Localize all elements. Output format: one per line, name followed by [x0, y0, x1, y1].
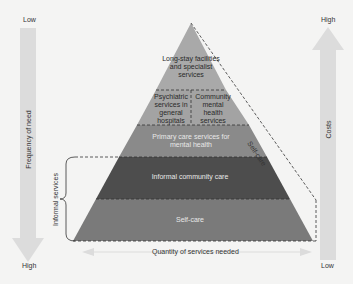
right-axis-bottom-label: Low [321, 262, 334, 270]
tier-label-primary-care: Primary care services for mental health [150, 133, 232, 149]
informal-services-label: Informal services [52, 165, 59, 235]
tier-label-community-mental-health: Community mental health services [192, 93, 234, 125]
quantity-of-services-label: Quantity of services needed [152, 248, 239, 256]
tier-label-long-stay: Long-stay facilities and specialist serv… [160, 55, 222, 79]
frequency-of-need-label: Frequency of need [25, 110, 32, 170]
tier-label-informal-community-care: Informal community care [130, 173, 250, 181]
left-axis-top-label: Low [23, 16, 36, 24]
right-axis-top-label: High [321, 16, 335, 24]
informal-services-bracket [60, 157, 75, 241]
tier-label-psychiatric: Psychiatric services in general hospital… [150, 93, 192, 125]
pyramid-diagram: Low High Frequency of need High Low Cost… [0, 0, 353, 284]
tier-label-self-care: Self-care [160, 216, 220, 224]
costs-label: Costs [325, 110, 332, 150]
left-axis-bottom-label: High [22, 262, 36, 270]
